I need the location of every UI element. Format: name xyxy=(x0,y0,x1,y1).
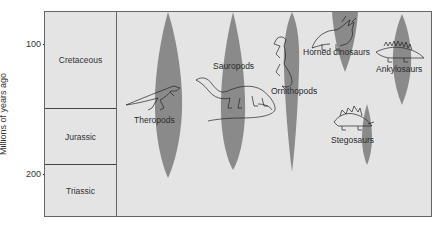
spindle-horned-dinosaurs xyxy=(332,12,358,72)
label-horned-dinosaurs: Horned dinosaurs xyxy=(303,47,370,57)
spindle-sauropods xyxy=(221,12,245,170)
spindle-ankylosaurs xyxy=(393,14,411,105)
spindle-theropods xyxy=(155,12,182,178)
label-ankylosaurs: Ankylosaurs xyxy=(376,64,422,74)
label-stegosaurs: Stegosaurs xyxy=(331,135,374,145)
spindle-plot xyxy=(0,0,446,228)
label-theropods: Theropods xyxy=(134,115,175,125)
label-ornithopods: Ornithopods xyxy=(271,86,317,96)
label-sauropods: Sauropods xyxy=(213,61,254,71)
